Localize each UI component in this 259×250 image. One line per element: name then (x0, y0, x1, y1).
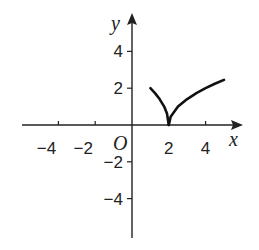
curves (150, 80, 224, 125)
y-axis-label: y (109, 12, 120, 35)
chart: −4−22442−2−4 x y O (0, 0, 259, 250)
y-tick-label: 4 (114, 42, 123, 61)
curve-right-branch (169, 80, 224, 125)
curve-left-branch (150, 88, 168, 125)
x-tick-label: 2 (164, 139, 173, 158)
x-tick-label: −4 (37, 139, 56, 158)
y-tick-label: 2 (114, 79, 123, 98)
y-tick-label: −4 (104, 190, 123, 209)
x-tick-label: 4 (201, 139, 210, 158)
x-axis-label: x (228, 128, 238, 150)
origin-label: O (113, 132, 127, 154)
x-tick-label: −2 (74, 139, 93, 158)
axes (22, 13, 243, 238)
y-tick-label: −2 (104, 153, 123, 172)
